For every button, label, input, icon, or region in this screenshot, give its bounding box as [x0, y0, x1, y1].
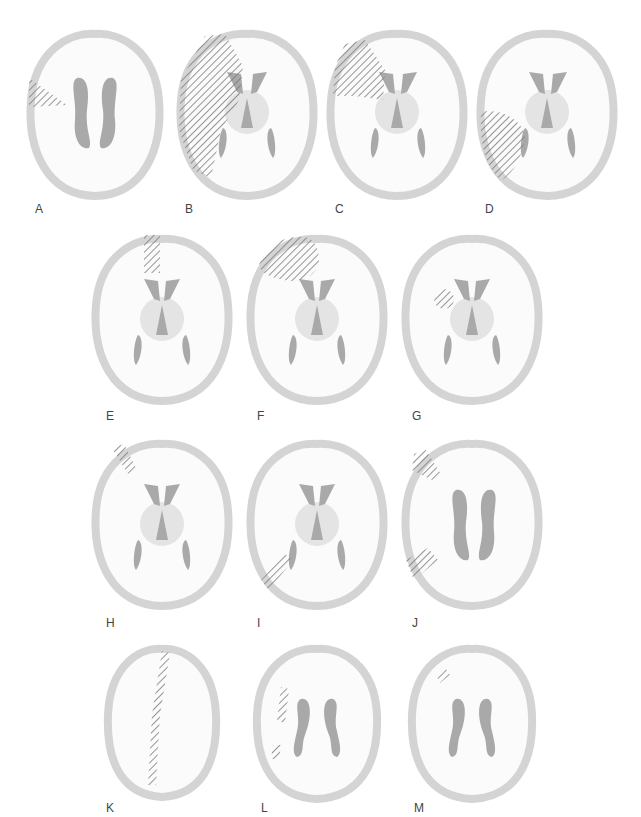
panel-label: L: [261, 801, 268, 815]
panel-label: F: [257, 409, 264, 423]
panel-label: D: [485, 202, 494, 216]
panel-m: M: [400, 645, 545, 817]
panel-f: F: [245, 235, 390, 435]
brain-slice-e: [90, 235, 235, 405]
brain-slice-a: [25, 30, 165, 200]
brain-slice-k: [90, 645, 235, 805]
brain-slice-g: [400, 235, 545, 405]
brain-slice-f: [245, 235, 390, 405]
brain-slice-b: [175, 30, 320, 200]
panel-label: A: [35, 202, 43, 216]
panel-label: C: [335, 202, 344, 216]
panel-l: L: [245, 645, 390, 817]
brain-slice-d: [475, 30, 620, 200]
panel-label: B: [185, 202, 193, 216]
panel-i: I: [245, 440, 390, 640]
panel-j: J: [400, 440, 545, 640]
panel-c: C: [325, 30, 470, 210]
panel-label: K: [106, 801, 114, 815]
panel-k: K: [90, 645, 235, 817]
panel-b: B: [175, 30, 320, 210]
panel-label: E: [106, 409, 114, 423]
panel-d: D: [475, 30, 620, 210]
panel-label: H: [106, 616, 115, 630]
brain-slice-h: [90, 440, 235, 610]
panel-label: M: [414, 801, 424, 815]
panel-g: G: [400, 235, 545, 435]
brain-slice-j: [400, 440, 545, 610]
brain-slice-m: [400, 645, 545, 805]
brain-slice-l: [245, 645, 390, 805]
panel-e: E: [90, 235, 235, 435]
panel-label: I: [257, 616, 260, 630]
brain-slice-i: [245, 440, 390, 610]
panel-label: G: [412, 409, 421, 423]
panel-h: H: [90, 440, 235, 640]
panel-a: A: [25, 30, 165, 210]
panel-label: J: [412, 616, 418, 630]
brain-slice-c: [325, 30, 470, 200]
